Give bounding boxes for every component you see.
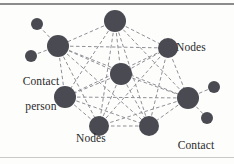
graph-node[interactable] [139, 116, 159, 136]
graph-node[interactable] [177, 87, 199, 109]
graph-edge [115, 21, 188, 98]
graph-edge [149, 48, 168, 126]
graph-node[interactable] [110, 63, 132, 85]
network-diagram-figure: Nodes Nodes Contact person Contact perso… [0, 0, 234, 164]
contact-person-node[interactable] [25, 50, 37, 62]
contact-person-node[interactable] [201, 112, 213, 124]
label-nodes-right: Nodes [176, 41, 206, 54]
label-contact-person-right: Contact person [160, 126, 220, 164]
graph-edge [65, 97, 188, 98]
graph-node[interactable] [47, 35, 69, 57]
graph-node[interactable] [104, 10, 126, 32]
label-contact-person-right-line2: person [180, 164, 211, 165]
label-nodes-bottom: Nodes [76, 132, 106, 145]
label-contact-person-left-line1: Contact [23, 75, 59, 87]
label-contact-person-left-line2: person [25, 100, 56, 112]
graph-node[interactable] [158, 38, 178, 58]
contact-person-node[interactable] [31, 18, 43, 30]
label-contact-person-right-line1: Contact [178, 139, 214, 151]
bottom-divider-rule [0, 157, 234, 158]
graph-edge [58, 46, 168, 48]
contact-person-node[interactable] [208, 81, 220, 93]
label-contact-person-left: Contact person [6, 62, 64, 125]
